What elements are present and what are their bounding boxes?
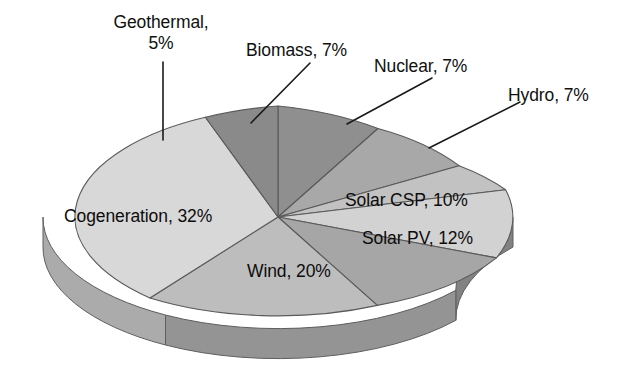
label-cogeneration: Cogeneration, 32% [64, 206, 212, 227]
leader-line-hydro [429, 102, 520, 148]
label-wind: Wind, 20% [247, 261, 331, 282]
label-biomass: Biomass, 7% [246, 40, 347, 61]
label-hydro: Hydro, 7% [508, 85, 589, 106]
leader-line-nuclear [347, 78, 432, 124]
label-geothermal: Geothermal, 5% [96, 12, 226, 53]
label-geothermal-line2: 5% [148, 33, 173, 53]
label-geothermal-line1: Geothermal, [113, 12, 208, 32]
label-solar-csp: Solar CSP, 10% [345, 190, 468, 211]
label-solar-pv: Solar PV, 12% [362, 228, 473, 249]
label-nuclear: Nuclear, 7% [374, 56, 467, 77]
pie-chart-figure: Geothermal, 5% Biomass, 7% Nuclear, 7% H… [0, 0, 642, 370]
